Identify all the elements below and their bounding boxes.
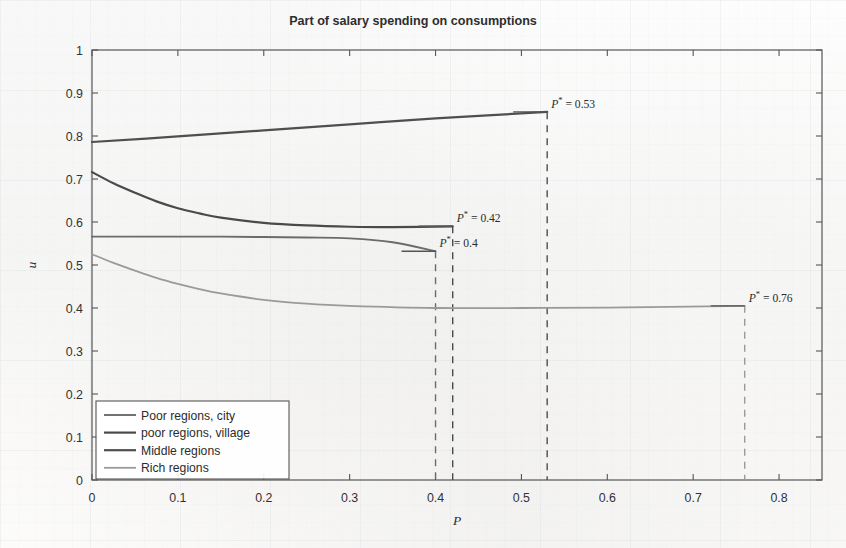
pstar-annotation: P* = 0.42	[456, 209, 501, 225]
y-tick-label: 0.4	[66, 302, 83, 316]
x-tick-label: 0	[89, 491, 96, 505]
chart-title: Part of salary spending on consumptions	[289, 14, 537, 28]
legend-label[interactable]: Middle regions	[141, 444, 220, 458]
legend-label[interactable]: poor regions, village	[141, 426, 250, 440]
x-tick-label: 0.7	[685, 491, 702, 505]
legend-label[interactable]: Poor regions, city	[141, 409, 236, 423]
x-tick-label: 0.4	[427, 491, 444, 505]
legend-box[interactable]: Poor regions, citypoor regions, villageM…	[96, 401, 289, 479]
x-tick-label: 0.6	[599, 491, 616, 505]
x-tick-label: 0.2	[255, 491, 272, 505]
y-tick-label: 1	[76, 44, 83, 58]
y-tick-label: 0.1	[66, 431, 83, 445]
y-tick-label: 0.6	[66, 216, 83, 230]
pstar-annotation: P* = 0.4	[439, 234, 478, 250]
x-tick-label: 0.3	[341, 491, 358, 505]
x-tick-label: 0.8	[770, 491, 787, 505]
y-tick-label: 0.8	[66, 130, 83, 144]
y-tick-label: 0.2	[66, 388, 83, 402]
y-tick-label: 0	[76, 474, 83, 488]
x-tick-label: 0.1	[169, 491, 186, 505]
y-axis-label: u	[24, 261, 39, 268]
y-tick-label: 0.3	[66, 345, 83, 359]
x-axis-label: P	[452, 513, 461, 528]
y-tick-label: 0.9	[66, 87, 83, 101]
x-tick-label: 0.5	[513, 491, 530, 505]
line-chart: Part of salary spending on consumptions …	[0, 0, 846, 548]
y-tick-label: 0.5	[66, 259, 83, 273]
pstar-annotation: P* = 0.53	[550, 95, 595, 111]
chart-figure: Part of salary spending on consumptions …	[0, 0, 846, 548]
y-tick-label: 0.7	[66, 173, 83, 187]
legend-label[interactable]: Rich regions	[141, 461, 209, 475]
pstar-annotation: P* = 0.76	[748, 289, 793, 305]
